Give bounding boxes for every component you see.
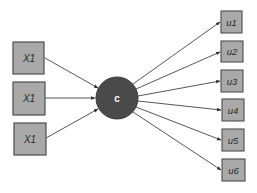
output-node-u6-label: u6: [228, 165, 239, 176]
output-node-u5: u5: [222, 129, 244, 151]
edge-c-to-u4: [138, 101, 221, 110]
input-node-1-label: X1: [22, 53, 35, 64]
output-node-u2-label: u2: [227, 46, 238, 57]
output-edges: [133, 22, 221, 170]
edge-c-to-u5: [136, 107, 221, 140]
output-node-u1-label: u1: [226, 17, 237, 28]
edge-x1-a-to-c: [45, 58, 98, 88]
center-node-label: c: [114, 93, 120, 104]
edge-c-to-u3: [138, 81, 220, 96]
output-node-u6: u6: [222, 159, 245, 181]
input-node-2-label: X1: [22, 93, 35, 104]
output-node-u3-label: u3: [227, 76, 238, 87]
input-edges: [45, 58, 98, 138]
output-node-u3: u3: [221, 70, 243, 92]
output-node-u2: u2: [221, 41, 243, 62]
input-node-1: X1: [13, 42, 44, 74]
output-node-u5-label: u5: [228, 135, 239, 146]
input-node-3: X1: [14, 123, 46, 155]
edge-x1-c-to-c: [46, 109, 98, 138]
output-node-u1: u1: [221, 11, 242, 33]
edge-c-to-u6: [133, 112, 221, 170]
input-node-3-label: X1: [23, 134, 36, 145]
input-node-2: X1: [13, 82, 45, 115]
output-node-u4: u4: [222, 99, 244, 121]
diagram-canvas: X1 X1 X1 c u1 u2 u3 u4 u5 u6: [0, 0, 257, 193]
edge-c-to-u1: [133, 22, 220, 84]
center-node: c: [96, 77, 138, 119]
output-node-u4-label: u4: [228, 105, 239, 116]
